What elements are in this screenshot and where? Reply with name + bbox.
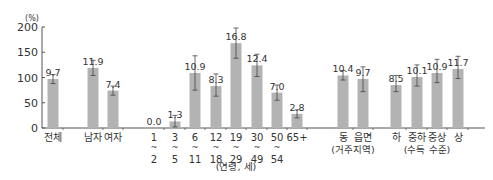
bars: 9.711.97.40.01.310.98.316.812.47.02.810.… — [45, 28, 468, 130]
bar — [108, 91, 119, 128]
bar-group: 1.3 — [167, 109, 185, 130]
x-tick-label: 50 — [271, 132, 284, 143]
bar-group: 9.7 — [45, 67, 63, 130]
bar-group: 2.8 — [289, 102, 307, 130]
value-label: 1.3 — [167, 109, 182, 120]
value-label: 2.8 — [289, 102, 304, 113]
x-tick-label: 19 — [230, 132, 243, 143]
bar-chart: 050100150200(%) 9.711.97.40.01.310.98.31… — [0, 0, 493, 180]
y-tick-label: 0 — [31, 122, 38, 135]
x-tick-label: 2 — [151, 154, 157, 165]
x-tick-label: 5 — [172, 154, 178, 165]
value-label: 10.1 — [406, 65, 427, 76]
y-tick-label: 100 — [17, 72, 38, 85]
value-label: 10.9 — [184, 61, 205, 72]
x-tick-label: 65+ — [286, 132, 307, 143]
value-label: 7.0 — [269, 81, 284, 92]
x-tick-label: 중상 — [428, 132, 446, 143]
x-tick-label: 54 — [271, 154, 284, 165]
value-label: 0.0 — [146, 116, 161, 127]
value-label: 10.9 — [426, 61, 447, 72]
group-label: (거주지역) — [331, 144, 374, 155]
bar-group: 10.1 — [406, 65, 427, 130]
x-tick-label: 남자 — [84, 132, 102, 143]
y-tick-label: 50 — [24, 97, 38, 110]
x-tick-label: ~ — [254, 143, 261, 152]
bar-group: 9.7 — [355, 67, 373, 130]
value-label: 11.7 — [447, 57, 468, 68]
x-axis-labels: 전체남자여자1~23~56~1112~1819~2930~4950~5465+동… — [44, 131, 463, 165]
group-label: (연령, 세) — [216, 161, 256, 172]
x-tick-label: 하 — [392, 131, 401, 143]
value-label: 9.7 — [355, 67, 370, 78]
bar — [338, 75, 349, 128]
bar-group: 11.9 — [82, 56, 103, 130]
bar-group: 10.9 — [426, 59, 447, 130]
x-tick-label: 12 — [210, 132, 223, 143]
bar-group: 10.4 — [332, 63, 353, 130]
bar — [48, 79, 59, 128]
x-tick-label: 6 — [192, 132, 198, 143]
x-tick-label: 상 — [454, 132, 463, 143]
y-axis-unit: (%) — [25, 14, 39, 23]
x-tick-label: ~ — [151, 143, 158, 152]
value-label: 11.9 — [82, 56, 103, 67]
value-label: 8.5 — [388, 73, 403, 84]
bar-group: 8.5 — [388, 73, 406, 130]
bar-group: 16.8 — [225, 28, 246, 130]
x-tick-label: 1 — [151, 132, 157, 143]
x-tick-label: ~ — [192, 143, 199, 152]
bar-group: 7.4 — [105, 79, 123, 130]
bar-group: 7.0 — [269, 81, 287, 130]
bar-group: 10.9 — [184, 56, 205, 130]
x-tick-label: 여자 — [104, 132, 122, 143]
x-tick-label: ~ — [233, 143, 240, 152]
group-label: (수득 수준) — [404, 144, 450, 155]
value-label: 12.4 — [246, 53, 267, 64]
x-tick-label: 중하 — [408, 131, 426, 143]
x-tick-label: 전체 — [44, 132, 62, 143]
bar-group: 12.4 — [246, 53, 267, 130]
bar-group: 8.3 — [208, 74, 226, 130]
x-tick-label: ~ — [213, 143, 220, 152]
value-label: 9.7 — [45, 67, 60, 78]
y-tick-label: 150 — [17, 46, 38, 59]
bar-group: 11.7 — [447, 56, 468, 130]
x-tick-label: 3 — [172, 132, 178, 143]
x-tick-label: ~ — [274, 143, 281, 152]
value-label: 7.4 — [105, 79, 120, 90]
value-label: 8.3 — [208, 74, 223, 85]
x-tick-label: ~ — [172, 143, 179, 152]
value-label: 10.4 — [332, 63, 353, 74]
x-tick-label: 읍면 — [354, 132, 372, 143]
x-tick-label: 동 — [339, 132, 348, 143]
value-label: 16.8 — [225, 31, 246, 42]
x-tick-label: 30 — [251, 132, 264, 143]
x-tick-label: 11 — [189, 154, 202, 165]
bar — [88, 68, 99, 128]
